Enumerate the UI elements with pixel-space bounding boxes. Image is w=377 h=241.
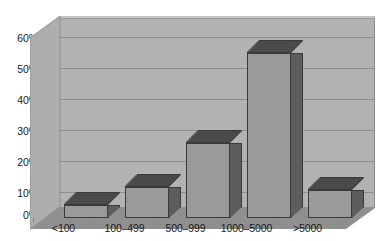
bar-front-face bbox=[247, 53, 291, 218]
x-axis-label: <100 bbox=[33, 223, 94, 234]
bar-side-face bbox=[230, 143, 242, 218]
bar-chart: 60% 50% 40% 30% 20% 10% 0% bbox=[0, 0, 377, 241]
bar-front-face bbox=[308, 190, 352, 218]
bar-front-face bbox=[125, 187, 169, 218]
bar-column bbox=[186, 16, 230, 218]
x-axis-label: 1000–5000 bbox=[213, 223, 280, 234]
bar-front-face bbox=[64, 205, 108, 218]
x-axis-labels: <100 100–499 500–999 1000–5000 >5000 bbox=[0, 223, 377, 241]
plot-area bbox=[30, 8, 377, 218]
x-axis-label: 100–499 bbox=[94, 223, 155, 234]
bar-column bbox=[247, 16, 291, 218]
bar-column bbox=[64, 16, 108, 218]
x-axis-label: >5000 bbox=[277, 223, 338, 234]
bar-front-face bbox=[186, 143, 230, 218]
chart-left-wall bbox=[30, 16, 60, 229]
bar-column bbox=[308, 16, 352, 218]
x-axis-label: 500–999 bbox=[155, 223, 216, 234]
bar-side-face bbox=[291, 53, 303, 218]
bar-column bbox=[125, 16, 169, 218]
